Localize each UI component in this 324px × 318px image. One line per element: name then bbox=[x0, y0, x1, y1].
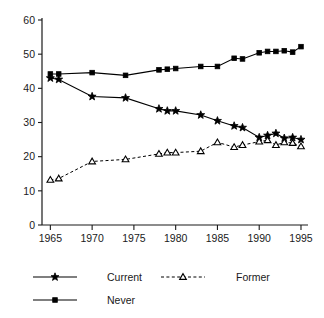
data-point-marker bbox=[215, 64, 220, 69]
y-tick-label: 40 bbox=[23, 82, 35, 94]
y-tick-label: 30 bbox=[23, 116, 35, 128]
y-tick-label: 20 bbox=[23, 150, 35, 162]
data-point-marker bbox=[265, 49, 270, 54]
data-point-marker bbox=[290, 50, 295, 55]
legend-label: Former bbox=[236, 271, 270, 283]
data-point-marker bbox=[240, 57, 245, 62]
data-point-marker bbox=[274, 49, 279, 54]
x-tick-label: 1985 bbox=[206, 232, 230, 244]
x-tick-label: 1975 bbox=[122, 232, 146, 244]
y-tick-label: 60 bbox=[23, 14, 35, 26]
data-point-marker bbox=[282, 48, 287, 53]
data-point-marker bbox=[48, 72, 53, 77]
data-point-marker bbox=[165, 67, 170, 72]
legend-label: Never bbox=[107, 294, 136, 306]
chart-background bbox=[0, 0, 324, 318]
data-point-marker bbox=[157, 68, 162, 73]
data-point-marker bbox=[90, 70, 95, 75]
x-tick-label: 1970 bbox=[80, 232, 104, 244]
x-tick-label: 1995 bbox=[289, 232, 313, 244]
data-point-marker bbox=[198, 64, 203, 69]
data-point-marker bbox=[173, 66, 178, 71]
smoking-status-line-chart: 0102030405060 19651970197519801985199019… bbox=[0, 0, 324, 318]
data-point-marker bbox=[53, 298, 58, 303]
x-tick-label: 1990 bbox=[248, 232, 272, 244]
data-point-marker bbox=[232, 56, 237, 61]
x-tick-label: 1980 bbox=[164, 232, 188, 244]
data-point-marker bbox=[299, 44, 304, 49]
y-tick-label: 10 bbox=[23, 185, 35, 197]
x-tick-label: 1965 bbox=[39, 232, 63, 244]
data-point-marker bbox=[257, 51, 262, 56]
data-point-marker bbox=[123, 73, 128, 78]
y-tick-label: 0 bbox=[29, 219, 35, 231]
data-point-marker bbox=[56, 72, 61, 77]
y-tick-label: 50 bbox=[23, 48, 35, 60]
legend-label: Current bbox=[107, 271, 142, 283]
